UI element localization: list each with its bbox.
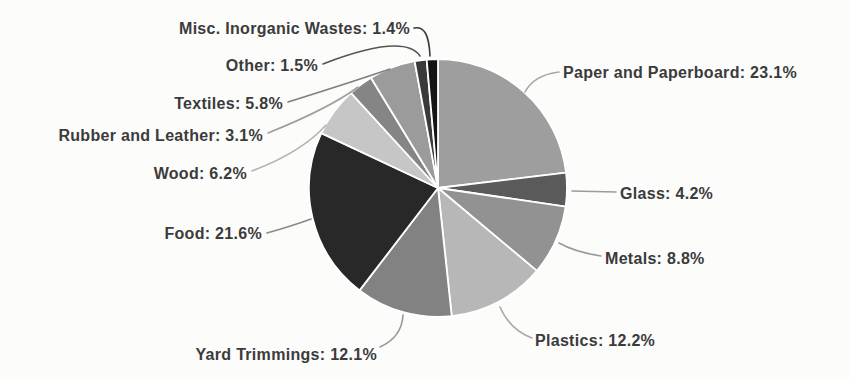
pie-chart: Paper and Paperboard: 23.1%Glass: 4.2%Me… (0, 0, 850, 379)
slice-label-plastics: Plastics: 12.2% (535, 332, 655, 349)
slice-label-rubber-and-leather: Rubber and Leather: 3.1% (58, 127, 263, 144)
leader-line-glass (572, 191, 616, 192)
slice-label-wood: Wood: 6.2% (154, 165, 247, 182)
waste-composition-pie-figure: Paper and Paperboard: 23.1%Glass: 4.2%Me… (0, 0, 850, 379)
leader-line-metals (559, 243, 601, 256)
slice-label-textiles: Textiles: 5.8% (174, 95, 283, 112)
slice-label-metals: Metals: 8.8% (605, 250, 705, 267)
slice-label-misc-inorganic-wastes: Misc. Inorganic Wastes: 1.4% (179, 20, 410, 37)
slice-label-food: Food: 21.6% (164, 225, 262, 242)
leader-line-yard-trimmings (380, 315, 403, 347)
leader-line-plastics (500, 307, 532, 338)
slice-label-other: Other: 1.5% (226, 57, 318, 74)
slice-label-paper-and-paperboard: Paper and Paperboard: 23.1% (563, 64, 797, 81)
leader-line-paper-and-paperboard (525, 72, 559, 92)
leader-line-food (267, 219, 311, 233)
slice-label-yard-trimmings: Yard Trimmings: 12.1% (196, 346, 377, 363)
leader-line-other (323, 46, 420, 64)
slice-label-glass: Glass: 4.2% (620, 185, 713, 202)
pie-slice-paper-and-paperboard (438, 59, 566, 188)
